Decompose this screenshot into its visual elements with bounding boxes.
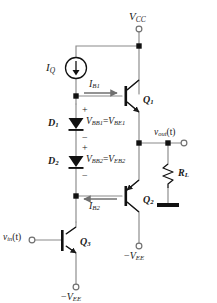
diode-d2-symbol — [69, 156, 84, 169]
current-source-symbol — [66, 58, 87, 79]
node-bias-lower — [73, 193, 78, 198]
resistor-rl-symbol — [163, 164, 173, 188]
node-vcc — [136, 43, 141, 48]
node-output — [136, 140, 141, 145]
wire-q2-collector-to-vee — [127, 202, 139, 243]
polarity-plus-d2: + — [82, 143, 88, 153]
diode-d1-symbol — [69, 118, 84, 131]
terminal-vcc — [136, 26, 142, 32]
schematic-svg — [0, 0, 217, 303]
wire-vcc-to-current-source — [76, 46, 139, 58]
node-bias-upper — [73, 93, 78, 98]
label-ib1: IB1 — [89, 79, 100, 89]
label-vin: vin(t) — [3, 233, 21, 243]
transistor-q3-symbol — [61, 227, 76, 253]
label-vbb1: VBB1=VBE1 — [86, 117, 125, 127]
label-q3: Q3 — [80, 237, 91, 247]
label-vee-q3: −VEE — [61, 292, 81, 302]
label-vee-q2: −VEE — [124, 251, 144, 261]
label-rl: RL — [178, 168, 189, 178]
terminal-vee-q2 — [136, 243, 142, 249]
terminal-vout — [181, 140, 187, 146]
node-rl — [165, 140, 170, 145]
transistor-q2-symbol — [125, 180, 140, 212]
label-q1: Q1 — [143, 95, 154, 105]
label-vout: vout(t) — [154, 128, 175, 138]
label-current-source: IQ — [46, 62, 55, 73]
label-vcc: VCC — [129, 11, 146, 22]
polarity-minus-d2: − — [82, 171, 88, 181]
circuit-diagram: VCC IQ IB1 IB2 D1 D2 VBB1=VBE1 VBB2=VEB2… — [0, 0, 217, 303]
label-ib2: IB2 — [89, 201, 100, 211]
wire-out-to-q2-emitter — [127, 143, 139, 190]
terminal-vin — [29, 237, 35, 243]
label-d1: D1 — [48, 118, 59, 128]
label-q2: Q2 — [143, 195, 154, 205]
transistor-q1-symbol — [125, 80, 140, 112]
polarity-plus-d1: + — [82, 105, 88, 115]
ground-symbol — [157, 203, 179, 207]
terminal-vee-q3 — [73, 284, 79, 290]
label-d2: D2 — [48, 156, 59, 166]
label-vbb2: VBB2=VEB2 — [86, 155, 125, 165]
wire-q1-emitter-to-out — [127, 102, 139, 143]
